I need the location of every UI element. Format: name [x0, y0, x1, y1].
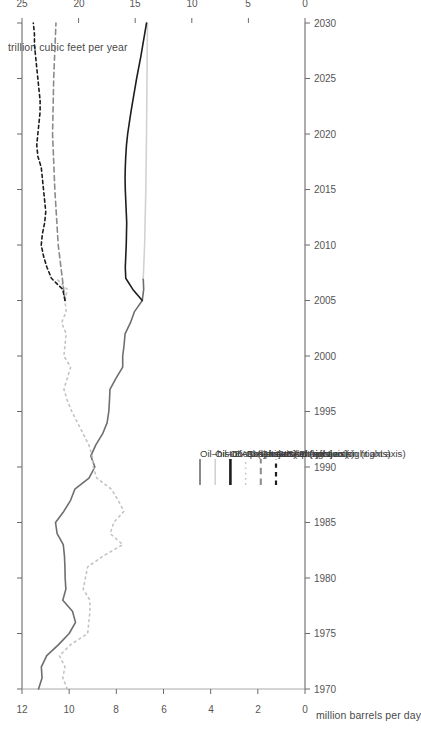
x-tick-1990: 1990 — [314, 462, 336, 473]
left-tick-2: 2 — [255, 704, 261, 715]
series-line-0 — [39, 278, 144, 689]
x-tick-1980: 1980 — [314, 573, 336, 584]
right-tick-10: 10 — [186, 0, 197, 9]
left-tick-8: 8 — [114, 704, 120, 715]
x-tick-2000: 2000 — [314, 351, 336, 362]
x-tick-1995: 1995 — [314, 406, 336, 417]
right-tick-20: 20 — [73, 0, 84, 9]
x-tick-2020: 2020 — [314, 129, 336, 140]
x-tick-2005: 2005 — [314, 295, 336, 306]
right-tick-5: 5 — [246, 0, 252, 9]
left-tick-4: 4 — [208, 704, 214, 715]
left-tick-10: 10 — [64, 704, 75, 715]
legend-label-5[interactable]: Gas–EIA projection (right axis) — [276, 448, 406, 459]
right-tick-0: 0 — [302, 0, 308, 9]
series-line-1 — [143, 23, 147, 278]
right-tick-15: 15 — [130, 0, 141, 9]
series-line-3 — [56, 278, 124, 689]
series-line-4 — [53, 23, 65, 301]
right-tick-25: 25 — [16, 0, 27, 9]
left-tick-12: 12 — [16, 704, 27, 715]
left-tick-0: 0 — [302, 704, 308, 715]
x-tick-1970: 1970 — [314, 684, 336, 695]
x-tick-1985: 1985 — [314, 517, 336, 528]
x-tick-1975: 1975 — [314, 628, 336, 639]
left-tick-6: 6 — [161, 704, 167, 715]
x-tick-2010: 2010 — [314, 240, 336, 251]
x-tick-2025: 2025 — [314, 73, 336, 84]
x-tick-2015: 2015 — [314, 184, 336, 195]
series-line-5 — [33, 23, 65, 301]
x-tick-2030: 2030 — [314, 18, 336, 29]
